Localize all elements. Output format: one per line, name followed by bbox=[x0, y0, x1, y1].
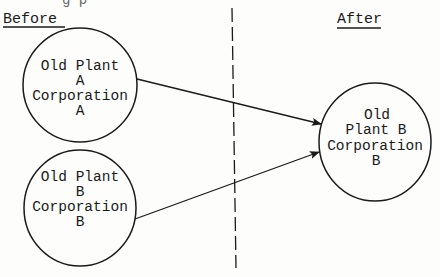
node-line: B bbox=[76, 184, 85, 200]
after-label: After bbox=[337, 11, 382, 28]
node-old-plant-b-corporation-b-before: Old Plant B Corporation B bbox=[24, 150, 136, 266]
node-line: B bbox=[372, 153, 381, 169]
diagram-svg: g p Before After Old Plant A Corporation… bbox=[0, 0, 440, 277]
before-after-divider bbox=[232, 8, 236, 268]
node-old-plant-b-corporation-b-after: Old Plant B Corporation B bbox=[319, 83, 431, 201]
arrow-plant-a-to-plant-b bbox=[137, 79, 321, 124]
node-line: A bbox=[76, 103, 85, 119]
node-line: Old Plant bbox=[41, 169, 119, 185]
arrow-plant-b-to-plant-b bbox=[135, 152, 319, 219]
node-line: Plant B bbox=[346, 122, 407, 138]
node-line: Corporation bbox=[32, 88, 128, 104]
node-line: A bbox=[76, 73, 85, 89]
truncated-caption-fragment: g p bbox=[62, 0, 87, 8]
node-old-plant-a-corporation-a: Old Plant A Corporation A bbox=[23, 28, 137, 142]
node-line: Old bbox=[364, 107, 390, 123]
node-line: Corporation bbox=[32, 199, 128, 215]
node-line: B bbox=[76, 214, 85, 230]
diagram-canvas: g p Before After Old Plant A Corporation… bbox=[0, 0, 440, 277]
before-label: Before bbox=[3, 11, 57, 28]
node-line: Corporation bbox=[327, 138, 423, 154]
node-line: Old Plant bbox=[41, 58, 119, 74]
